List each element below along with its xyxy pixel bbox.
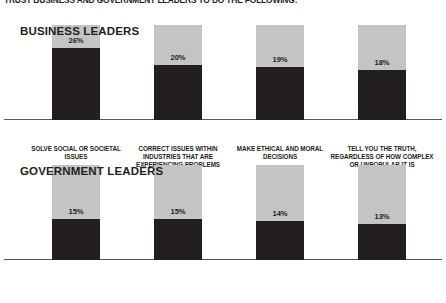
bar-value-label: 18% — [358, 58, 406, 67]
headline-text: TRUST BUSINESS AND GOVERNMENT LEADERS TO… — [4, 0, 297, 5]
section-title-business: BUSINESS LEADERS — [20, 25, 139, 37]
headline-banner: TRUST BUSINESS AND GOVERNMENT LEADERS TO… — [0, 0, 446, 8]
bar-fill — [154, 65, 202, 120]
bar-fill — [256, 67, 304, 120]
bar-fill — [52, 48, 100, 120]
bar-column[interactable]: 26% — [52, 25, 100, 120]
bar-fill — [52, 219, 100, 260]
bar-fill — [358, 70, 406, 120]
chart-plot-government: 15% 15% 14% 13% — [0, 165, 446, 260]
bar-caption: MAKE ETHICAL AND MORALDECISIONS — [226, 145, 334, 161]
bar-column[interactable]: 18% — [358, 25, 406, 120]
bar-fill — [358, 224, 406, 260]
bar-caption: SOLVE SOCIAL OR SOCIETALISSUES — [22, 145, 130, 161]
bar-value-label: 15% — [154, 207, 202, 216]
bar-column[interactable]: 15% — [154, 165, 202, 260]
bar-fill — [256, 221, 304, 260]
bar-column[interactable]: 15% — [52, 165, 100, 260]
bar-value-label: 13% — [358, 212, 406, 221]
bar-value-label: 19% — [256, 55, 304, 64]
bar-column[interactable]: 14% — [256, 165, 304, 260]
section-title-government: GOVERNMENT LEADERS — [20, 165, 163, 177]
bar-column[interactable]: 20% — [154, 25, 202, 120]
bar-value-label: 26% — [52, 36, 100, 45]
bar-value-label: 14% — [256, 209, 304, 218]
bar-value-label: 15% — [52, 207, 100, 216]
chart-plot-business: 26% 20% 19% 18% — [0, 25, 446, 120]
bar-column[interactable]: 19% — [256, 25, 304, 120]
bar-column[interactable]: 13% — [358, 165, 406, 260]
bar-value-label: 20% — [154, 53, 202, 62]
bar-fill — [154, 219, 202, 260]
